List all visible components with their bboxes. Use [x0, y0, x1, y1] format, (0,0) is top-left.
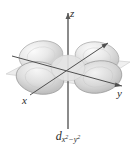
axis-label-x: x [22, 95, 27, 106]
caption-sub-y-exponent: 2 [77, 134, 80, 140]
axis-label-y: y [117, 88, 122, 99]
axis-label-z: z [70, 8, 74, 19]
caption-subscript: x2−y2 [62, 135, 81, 144]
orbital-illustration [0, 0, 136, 150]
orbital-caption: dx2−y2 [0, 130, 136, 144]
orbital-figure: z y x dx2−y2 [0, 0, 136, 150]
